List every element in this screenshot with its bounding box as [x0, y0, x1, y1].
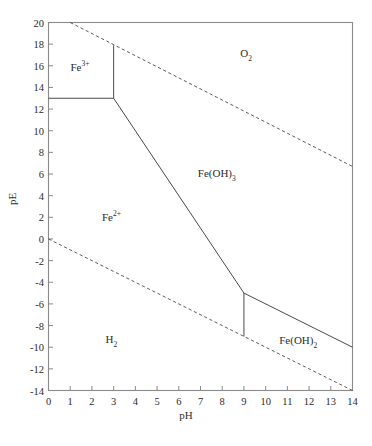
x-tick-label: 8: [220, 396, 225, 407]
x-tick-label: 0: [46, 396, 51, 407]
y-tick-label: 4: [14, 190, 44, 201]
y-tick-label: -12: [14, 363, 44, 374]
x-tick-label: 11: [282, 396, 292, 407]
pourbaix-diagram-figure: -14-12-10-8-6-4-202468101214161820012345…: [0, 0, 372, 446]
species-label-o2: O2: [240, 47, 252, 62]
y-tick-label: 0: [14, 233, 44, 244]
y-tick-label: 2: [14, 212, 44, 223]
y-tick-label: 12: [14, 104, 44, 115]
x-tick-label: 6: [176, 396, 181, 407]
x-tick-label: 14: [347, 396, 358, 407]
boundary-line-o2-h2o-stability-boundary: [70, 23, 352, 167]
x-tick-label: 7: [198, 396, 203, 407]
x-tick-label: 10: [260, 396, 271, 407]
y-tick-label: 14: [14, 82, 44, 93]
x-tick-label: 13: [326, 396, 337, 407]
x-tick-label: 3: [111, 396, 116, 407]
y-tick-label: -4: [14, 277, 44, 288]
y-tick-label: 6: [14, 169, 44, 180]
x-tick-label: 12: [304, 396, 315, 407]
y-tick-label: -8: [14, 320, 44, 331]
species-label-fe2: Fe2+: [102, 209, 121, 223]
y-tick-label: 18: [14, 39, 44, 50]
x-tick-label: 1: [68, 396, 73, 407]
x-tick-label: 2: [89, 396, 94, 407]
boundary-line-fe2-fe-oh-3-boundary: [114, 98, 244, 293]
y-tick-label: -2: [14, 255, 44, 266]
x-tick-label: 9: [241, 396, 246, 407]
species-label-fe3: Fe3+: [70, 59, 89, 73]
y-tick-label: -10: [14, 342, 44, 353]
y-tick-label: -6: [14, 298, 44, 309]
x-tick-label: 5: [154, 396, 159, 407]
y-axis-title: pE: [6, 193, 18, 205]
y-tick-label: 10: [14, 125, 44, 136]
species-label-feoh3: Fe(OH)3: [198, 168, 236, 183]
plot-canvas: [0, 0, 372, 446]
x-axis-title: pH: [179, 409, 192, 421]
boundary-line-h2o-h2-stability-boundary: [49, 239, 353, 391]
y-tick-label: 8: [14, 147, 44, 158]
y-tick-label: 20: [14, 17, 44, 28]
x-tick-label: 4: [133, 396, 138, 407]
y-tick-label: -14: [14, 385, 44, 396]
species-label-h2: H2: [106, 333, 118, 348]
species-label-feoh2: Fe(OH)2: [279, 334, 317, 349]
y-tick-label: 16: [14, 60, 44, 71]
